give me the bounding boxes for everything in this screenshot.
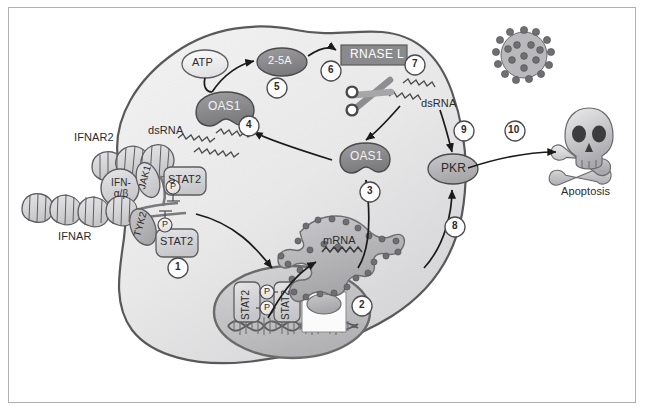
label-stat2-nucleus-right: STAT2 — [281, 290, 292, 320]
label-ifnar: IFNAR — [58, 231, 92, 243]
label-oas1-upper: OAS1 — [208, 100, 240, 113]
pathway-diagram-canvas — [0, 0, 646, 414]
label-2-5a: 2-5A — [268, 55, 292, 67]
step-4-number: 4 — [246, 120, 252, 131]
interferon-pathway-figure: IFNAR2 IFN- α/β IFNAR JAK1 TYK2 STAT2 ST… — [0, 0, 646, 414]
label-atp: ATP — [192, 57, 213, 69]
label-phosphate-lower: P — [162, 220, 168, 229]
step-5-number: 5 — [274, 82, 280, 93]
step-10-number: 10 — [508, 125, 519, 136]
virus-particle — [492, 26, 554, 83]
step-9-number: 9 — [461, 125, 467, 136]
label-stat2-nucleus-left: STAT2 — [241, 290, 252, 320]
step-3-number: 3 — [367, 186, 373, 197]
label-phosphate-nuc-upper: P — [264, 287, 270, 296]
step-7-number: 7 — [412, 59, 418, 70]
label-apoptosis: Apoptosis — [561, 186, 610, 198]
step-8-number: 8 — [452, 221, 458, 232]
label-phosphate-nuc-lower: P — [264, 303, 270, 312]
label-stat2-lower: STAT2 — [160, 236, 193, 248]
label-ifnar2: IFNAR2 — [74, 132, 114, 144]
step-1-number: 1 — [175, 262, 181, 273]
step-6-number: 6 — [328, 65, 334, 76]
label-rnase-l: RNASE L — [350, 48, 404, 61]
label-phosphate-upper: P — [170, 182, 176, 191]
ifn-line-2: α/β — [114, 188, 129, 199]
ifn-line-1: IFN- — [111, 177, 131, 188]
label-ifn-alpha-beta: IFN- α/β — [107, 178, 135, 199]
label-pkr: PKR — [441, 162, 466, 175]
label-mrna: mRNA — [323, 235, 356, 247]
step-2-number: 2 — [359, 300, 365, 311]
label-dsrna-right: dsRNA — [421, 98, 456, 110]
label-oas1-lower: OAS1 — [350, 150, 382, 163]
apoptosis-skull-icon — [548, 108, 613, 193]
label-dsrna-left: dsRNA — [148, 125, 183, 137]
